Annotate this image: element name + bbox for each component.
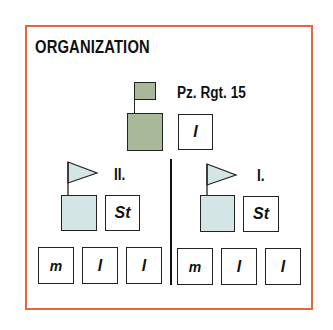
battalion-ii-company-1: m: [38, 247, 74, 284]
battalion-divider: [170, 159, 172, 285]
battalion-i-company-1: m: [177, 248, 213, 285]
battalion-ii-flag-icon: [67, 161, 99, 197]
battalion-i-label: I.: [257, 167, 265, 185]
battalion-i-flag-icon: [206, 163, 238, 199]
battalion-ii-staff-box: St: [105, 195, 140, 231]
battalion-i-hq-symbol: [200, 195, 235, 232]
battalion-ii-company-2: l: [82, 247, 118, 284]
regiment-hq-symbol: [127, 113, 163, 151]
battalion-ii-company-3: l: [126, 247, 162, 284]
battalion-i-staff-box: St: [243, 196, 279, 232]
regiment-flag-pole: [134, 82, 135, 114]
regiment-label: Pz. Rgt. 15: [177, 84, 246, 102]
regiment-staff-box: l: [178, 114, 213, 150]
battalion-i-company-3: l: [265, 248, 301, 285]
battalion-i-company-2: l: [221, 248, 257, 285]
battalion-ii-label: II.: [114, 166, 125, 184]
regiment-flag-icon: [134, 82, 156, 100]
battalion-ii-hq-symbol: [61, 195, 97, 231]
diagram-title: ORGANIZATION: [35, 37, 150, 58]
